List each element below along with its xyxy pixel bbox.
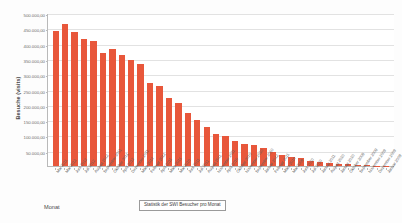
x-label-slot: April 2010 xyxy=(220,168,229,204)
bar-slot xyxy=(240,14,249,166)
bar-slot xyxy=(79,14,88,166)
bar-slot xyxy=(325,14,334,166)
y-axis-tick-label: 500.000,00 xyxy=(24,13,45,18)
x-label-slot: November 2011 xyxy=(211,168,220,204)
x-label-slot: Juni 2011 xyxy=(183,168,192,204)
bar-slot xyxy=(306,14,315,166)
bar-slot xyxy=(202,14,211,166)
bar-slot xyxy=(155,14,164,166)
bar-slot xyxy=(278,14,287,166)
bar-slot xyxy=(372,14,381,166)
bar-slot xyxy=(164,14,173,166)
bar-slot xyxy=(70,14,79,166)
bar-slot xyxy=(362,14,371,166)
bar-slot xyxy=(60,14,69,166)
x-label-slot: April 2011 xyxy=(154,168,163,204)
x-label-slot: März 2012 xyxy=(135,168,144,204)
bar-slot xyxy=(334,14,343,166)
bar-slot xyxy=(127,14,136,166)
bar-slot xyxy=(381,14,390,166)
x-label-slot: August 2012 xyxy=(88,168,97,204)
y-axis-tick-label: 200.000,00 xyxy=(24,104,45,109)
y-axis-tick-label: 300.000,00 xyxy=(24,74,45,79)
bar-slot xyxy=(51,14,60,166)
bar-slot xyxy=(344,14,353,166)
x-label-slot: Juni 2010 xyxy=(296,168,305,204)
bar-slot xyxy=(230,14,239,166)
x-label-slot: Mai 2012 xyxy=(59,168,68,204)
bar-slot xyxy=(98,14,107,166)
x-label-slot: Januar 2012 xyxy=(258,168,267,204)
bars-container xyxy=(48,14,394,166)
x-label-slot: November 2010 xyxy=(239,168,248,204)
bar-slot xyxy=(193,14,202,166)
y-axis-tick-label: 350.000,00 xyxy=(24,58,45,63)
bar-slot xyxy=(221,14,230,166)
x-label-slot: August 2011 xyxy=(202,168,211,204)
x-label-slot: Juni 2012 xyxy=(69,168,78,204)
x-label-slot: Februar 2012 xyxy=(145,168,154,204)
x-label-slot: September 2009 xyxy=(353,168,362,204)
x-label-slot: Oktober 2010 xyxy=(230,168,239,204)
bar-slot xyxy=(108,14,117,166)
bar[interactable] xyxy=(62,24,68,166)
bar-chart: Besuche (visits) 500.000,00450.000,00400… xyxy=(0,0,402,223)
x-axis-tick-labels: Mai 2011Mai 2012Juni 2012Juli 2012August… xyxy=(47,168,394,204)
y-axis-title: Besuche (visits) xyxy=(15,43,21,153)
x-label-slot: Oktober 2009 xyxy=(344,168,353,204)
x-label-slot: November 2009 xyxy=(362,168,371,204)
x-label-slot: März 2010 xyxy=(277,168,286,204)
bar-slot xyxy=(136,14,145,166)
x-label-slot: Januar 2011 xyxy=(315,168,324,204)
bar[interactable] xyxy=(128,60,134,166)
bar-slot xyxy=(117,14,126,166)
x-label-slot: Mai 2010 xyxy=(173,168,182,204)
bar[interactable] xyxy=(71,32,77,166)
x-label-slot: August 2010 xyxy=(325,168,334,204)
y-axis-tick-label: 400.000,00 xyxy=(24,43,45,48)
bar[interactable] xyxy=(90,41,96,166)
bar-slot xyxy=(268,14,277,166)
bar-slot xyxy=(145,14,154,166)
x-label-slot: Januar 2010 xyxy=(334,168,343,204)
x-label-slot: Februar 2011 xyxy=(268,168,277,204)
x-label-slot: Juli 2010 xyxy=(306,168,315,204)
bar[interactable] xyxy=(100,53,106,166)
y-axis-tick-label: 450.000,00 xyxy=(24,28,45,33)
bar[interactable] xyxy=(109,49,115,166)
bar-slot xyxy=(259,14,268,166)
bar[interactable] xyxy=(53,31,59,166)
bar-slot xyxy=(174,14,183,166)
x-label-slot: Juli 2011 xyxy=(192,168,201,204)
x-label-slot: März 2011 xyxy=(164,168,173,204)
x-label-slot: September 2010 xyxy=(249,168,258,204)
y-axis-tick-label: 50.000,00 xyxy=(26,150,45,155)
bar-slot xyxy=(211,14,220,166)
x-axis-title: Monat xyxy=(44,204,60,210)
bar-slot xyxy=(89,14,98,166)
bar-slot xyxy=(353,14,362,166)
y-axis-tick-label: 100.000,00 xyxy=(24,135,45,140)
bar-slot xyxy=(183,14,192,166)
bar-slot xyxy=(287,14,296,166)
bar-slot xyxy=(296,14,305,166)
bar[interactable] xyxy=(166,98,172,166)
x-label-slot: Mai 2009 xyxy=(287,168,296,204)
x-label-slot: September 2011 xyxy=(97,168,106,204)
x-label-slot: Juli 2012 xyxy=(78,168,87,204)
x-label-slot: Dezember 2009 xyxy=(372,168,381,204)
y-axis-tick-label: 150.000,00 xyxy=(24,120,45,125)
x-label-slot: Mai 2011 xyxy=(50,168,59,204)
chart-legend: Statistik der SWI Besucher pro Monat xyxy=(139,200,226,211)
x-label-slot: Oktober 2011 xyxy=(107,168,116,204)
x-label-slot: Dezember 2011 xyxy=(126,168,135,204)
y-axis-tick-label: 250.000,00 xyxy=(24,89,45,94)
x-label-slot: April 2012 xyxy=(116,168,125,204)
plot-area: 500.000,00450.000,00400.000,00350.000,00… xyxy=(47,14,394,167)
bar-slot xyxy=(249,14,258,166)
bar-slot xyxy=(315,14,324,166)
bar[interactable] xyxy=(81,39,87,166)
x-label-slot: Januar 2009 xyxy=(381,168,390,204)
